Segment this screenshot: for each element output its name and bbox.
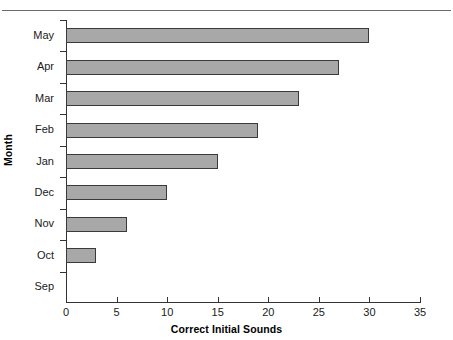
y-axis-title: Month <box>2 120 14 180</box>
y-axis-label-sep: Sep <box>34 280 54 292</box>
y-axis-label-jan: Jan <box>36 155 54 167</box>
page-header-artifacts <box>0 0 453 12</box>
plot-area <box>66 20 420 303</box>
bar-nov <box>66 217 127 232</box>
x-axis-title: Correct Initial Sounds <box>0 323 453 335</box>
x-axis-tick <box>420 297 421 303</box>
x-axis-label-25: 25 <box>313 306 325 318</box>
x-axis-label-30: 30 <box>363 306 375 318</box>
y-axis-label-may: May <box>33 29 54 41</box>
y-axis-tick <box>60 51 66 52</box>
y-axis-tick <box>60 272 66 273</box>
x-axis-tick <box>319 297 320 303</box>
bar-jan <box>66 154 218 169</box>
x-axis-tick <box>218 297 219 303</box>
x-axis-label-0: 0 <box>63 306 69 318</box>
x-axis-tick <box>66 297 67 303</box>
bar-oct <box>66 248 96 263</box>
y-axis-tick <box>60 146 66 147</box>
y-axis-tick <box>60 83 66 84</box>
y-axis-tick <box>60 114 66 115</box>
x-axis-label-20: 20 <box>262 306 274 318</box>
bar-dec <box>66 185 167 200</box>
bar-feb <box>66 123 258 138</box>
y-axis-label-nov: Nov <box>34 217 54 229</box>
y-axis-label-mar: Mar <box>35 92 54 104</box>
x-axis-tick <box>268 297 269 303</box>
horizontal-rule <box>2 10 451 11</box>
y-axis-tick <box>60 177 66 178</box>
y-axis-tick <box>60 209 66 210</box>
x-axis-label-15: 15 <box>212 306 224 318</box>
x-axis-tick <box>167 297 168 303</box>
x-axis-tick <box>369 297 370 303</box>
bar-apr <box>66 60 339 75</box>
x-axis-label-5: 5 <box>114 306 120 318</box>
bar-may <box>66 28 369 43</box>
y-axis-label-feb: Feb <box>35 123 54 135</box>
bar-chart: MayAprMarFebJanDecNovOctSep Correct Init… <box>0 12 453 340</box>
y-axis-label-oct: Oct <box>37 249 54 261</box>
x-axis-label-35: 35 <box>414 306 426 318</box>
bar-mar <box>66 91 299 106</box>
y-axis-tick <box>60 240 66 241</box>
y-axis-label-dec: Dec <box>34 186 54 198</box>
y-axis-tick <box>60 20 66 21</box>
y-axis-label-apr: Apr <box>37 60 54 72</box>
x-axis-tick <box>117 297 118 303</box>
x-axis-label-10: 10 <box>161 306 173 318</box>
